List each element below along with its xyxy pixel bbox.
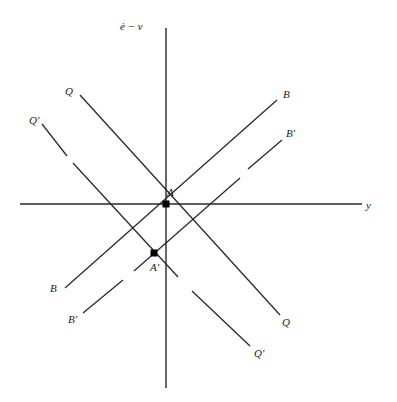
- q-label-top: Q: [65, 85, 73, 97]
- point-a-prime-label: A′: [149, 261, 160, 273]
- point-a-label: A: [166, 186, 174, 198]
- vertical-axis-label: ė − v: [120, 20, 143, 32]
- horizontal-axis-label: y: [365, 199, 371, 211]
- point-a-prime-marker: [151, 250, 158, 257]
- diagram-canvas: ė − v y Q Q Q′ Q′ B B B′ B′ A A′: [0, 0, 397, 402]
- b-prime-label-bottom: B′: [68, 313, 78, 325]
- q-label-bottom: Q: [282, 316, 290, 328]
- q-curve: [80, 95, 280, 315]
- b-label-bottom: B: [50, 282, 57, 294]
- q-prime-label-bottom: Q′: [254, 347, 265, 359]
- point-a-marker: [163, 201, 170, 208]
- b-prime-curve: [83, 140, 282, 313]
- b-label-top: B: [283, 88, 290, 100]
- q-prime-label-top: Q′: [29, 114, 40, 126]
- b-prime-label-top: B′: [286, 127, 296, 139]
